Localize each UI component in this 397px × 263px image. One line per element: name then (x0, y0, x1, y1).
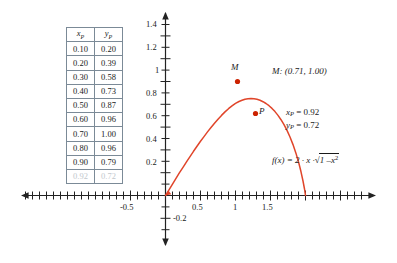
cell-y: 0.20 (95, 42, 123, 56)
cell-y: 0.79 (95, 155, 123, 169)
function-formula: f(x) = 2 · x ·√1 –x2 (272, 153, 339, 165)
formula-body: = 2 · x · (287, 155, 315, 165)
cell-x: 0.30 (67, 70, 95, 84)
cell-x: 0.20 (67, 56, 95, 70)
column-header-xp: xP (67, 28, 95, 42)
table-row: 0.600.96 (67, 113, 123, 127)
table-row: 0.400.73 (67, 84, 123, 98)
figure-canvas: -0.5 0.5 1 1.5 0.2 0.4 0.6 0.8 1 1.2 1.4… (0, 0, 397, 263)
table-row: 0.701.00 (67, 127, 123, 141)
xp-value: = 0.92 (296, 107, 319, 117)
formula-radicand-a: 1 – (320, 155, 331, 165)
point-P-marker (253, 111, 258, 116)
cell-y: 0.72 (95, 169, 123, 183)
y-tick-label-14: 1.4 (146, 19, 157, 29)
table-row: 0.300.58 (67, 70, 123, 84)
yp-value: = 0.72 (296, 120, 319, 130)
cell-x: 0.80 (67, 141, 95, 155)
point-P-label: P (259, 106, 265, 116)
y-tick-label-1: 1 (155, 65, 159, 75)
formula-radicand-exp: 2 (335, 154, 338, 161)
cell-y: 0.39 (95, 56, 123, 70)
column-header-yp-sub: P (109, 34, 113, 40)
column-header-yp: yP (95, 28, 123, 42)
y-tick-label-04: 0.4 (146, 134, 157, 144)
cell-y: 1.00 (95, 127, 123, 141)
cell-x: 0.92 (67, 169, 95, 183)
x-tick-label-05: 0.5 (192, 202, 203, 212)
yp-subscript: P (290, 123, 294, 130)
values-table: xP yP 0.100.20 0.200.39 0.300.58 0.400.7… (66, 27, 123, 184)
cell-x: 0.70 (67, 127, 95, 141)
cell-x: 0.90 (67, 155, 95, 169)
table-row: 0.800.96 (67, 141, 123, 155)
cell-x: 0.60 (67, 113, 95, 127)
table-row: 0.100.20 (67, 42, 123, 56)
xp-annotation: xP = 0.92 (286, 107, 319, 117)
xp-subscript: P (290, 110, 294, 117)
y-tick-label-08: 0.8 (146, 88, 157, 98)
cell-y: 0.96 (95, 113, 123, 127)
point-M-coordinates: M: (0.71, 1.00) (272, 66, 327, 76)
y-tick-label-02: 0.2 (146, 157, 157, 167)
column-header-xp-sub: P (81, 34, 85, 40)
table-row: 0.200.39 (67, 56, 123, 70)
plot-svg (0, 0, 397, 263)
formula-arg: (x) (275, 155, 285, 165)
table-row: 0.500.87 (67, 98, 123, 112)
cell-y: 0.96 (95, 141, 123, 155)
table-row: 0.900.79 (67, 155, 123, 169)
cell-x: 0.40 (67, 84, 95, 98)
table-row-highlighted: 0.920.72 (67, 169, 123, 183)
cell-y: 0.58 (95, 70, 123, 84)
x-tick-label-neg05: -0.5 (120, 202, 133, 212)
yp-annotation: yP = 0.72 (286, 120, 319, 130)
cell-y: 0.87 (95, 98, 123, 112)
function-curve (166, 99, 306, 196)
y-tick-label-12: 1.2 (146, 42, 157, 52)
point-M-label: M (231, 62, 239, 72)
table-header-row: xP yP (67, 28, 123, 42)
cell-x: 0.50 (67, 98, 95, 112)
x-tick-label-15: 1.5 (262, 202, 273, 212)
y-tick-label-neg02: -0.2 (173, 213, 186, 223)
cell-x: 0.10 (67, 42, 95, 56)
y-tick-label-06: 0.6 (146, 111, 157, 121)
formula-radicand: 1 –x2 (319, 153, 340, 165)
x-tick-label-1: 1 (233, 202, 237, 212)
point-M-marker (235, 79, 240, 84)
cell-y: 0.73 (95, 84, 123, 98)
